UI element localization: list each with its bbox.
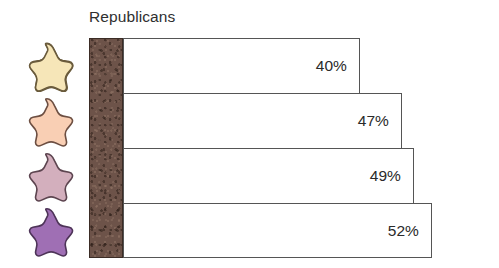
star-icon [19,95,75,147]
star-icon [19,150,75,202]
bar-value-label: 52% [388,222,419,240]
legend-star-column [13,38,81,258]
chart-title: Republicans [89,8,175,26]
bar-value-label: 40% [316,57,347,75]
bar-row-3: 49% [123,148,414,204]
axis-block [89,38,123,258]
legend-item-1 [13,38,81,93]
bar-row-1: 40% [123,38,360,94]
legend-item-2 [13,93,81,148]
bar-row-2: 47% [123,93,402,149]
bar-value-label: 47% [358,112,389,130]
star-icon [19,205,75,257]
star-icon [19,40,75,92]
bar-chart: Republicans 4 [0,0,499,268]
legend-item-3 [13,148,81,203]
plot-area: 40% 47% 49% 52% [89,38,479,258]
legend-item-4 [13,203,81,258]
axis-block-texture [90,39,122,257]
bar-row-4: 52% [123,203,432,258]
bar-value-label: 49% [370,167,401,185]
